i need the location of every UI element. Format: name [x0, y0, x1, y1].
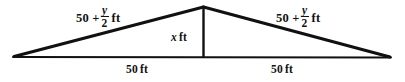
base-left-label: 50ft: [126, 64, 148, 76]
left-side-numerator: y: [101, 5, 109, 16]
height-unit: ft: [179, 31, 187, 43]
right-side-fraction: y2: [301, 5, 309, 29]
triangle-drawing: [0, 0, 405, 82]
base-right-unit: ft: [285, 63, 293, 75]
base-right-label: 50ft: [271, 64, 293, 76]
left-side-label: 50 +y2ft: [76, 5, 120, 29]
base-left-unit: ft: [140, 63, 148, 75]
right-side-label: 50 +y2ft: [276, 5, 320, 29]
left-side-prefix: 50 +: [76, 11, 100, 25]
height-label: xft: [171, 32, 187, 44]
triangle-figure: 50 +y2ft 50 +y2ft xft 50ft 50ft: [0, 0, 405, 82]
left-side-unit: ft: [112, 11, 121, 25]
right-side-denominator: 2: [301, 18, 309, 29]
right-side-numerator: y: [301, 5, 309, 16]
left-side-fraction: y2: [101, 5, 109, 29]
base-line: [13, 57, 391, 58]
base-left-value: 50: [126, 63, 138, 75]
right-side-unit: ft: [312, 11, 321, 25]
base-right-value: 50: [271, 63, 283, 75]
height-variable: x: [171, 31, 177, 43]
right-side-prefix: 50 +: [276, 11, 300, 25]
left-side-denominator: 2: [101, 18, 109, 29]
